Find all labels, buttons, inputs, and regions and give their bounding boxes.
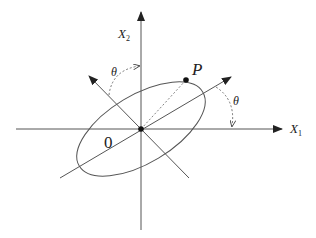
radius-to-p-dashed bbox=[141, 80, 186, 129]
x2-axis-label: X2 bbox=[117, 26, 130, 43]
x1-axis-label: X1 bbox=[289, 121, 302, 138]
theta-label-upper: θ bbox=[111, 65, 117, 79]
rotated-major-axis bbox=[60, 77, 231, 178]
point-p bbox=[183, 77, 189, 83]
point-p-label: P bbox=[191, 60, 202, 79]
theta-label-right: θ bbox=[233, 94, 239, 108]
origin-point bbox=[138, 126, 144, 132]
ellipse-rotation-diagram: X2 X1 P 0 θ θ bbox=[0, 0, 316, 238]
theta-arc-right bbox=[216, 87, 233, 126]
origin-label: 0 bbox=[104, 133, 113, 152]
